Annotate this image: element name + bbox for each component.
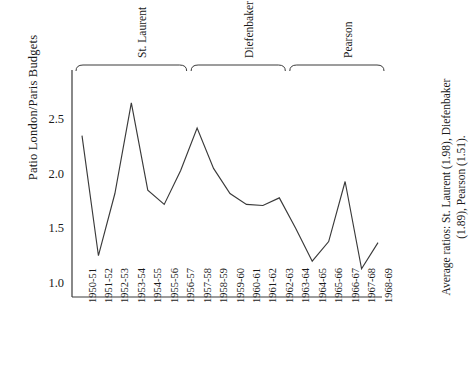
- period-bracket: [290, 65, 384, 71]
- average-ratios-note: Average ratios: St. Laurent (1.98), Dief…: [439, 62, 469, 312]
- period-bracket: [76, 65, 187, 71]
- period-bracket: [191, 65, 285, 71]
- data-series-line: [82, 103, 378, 269]
